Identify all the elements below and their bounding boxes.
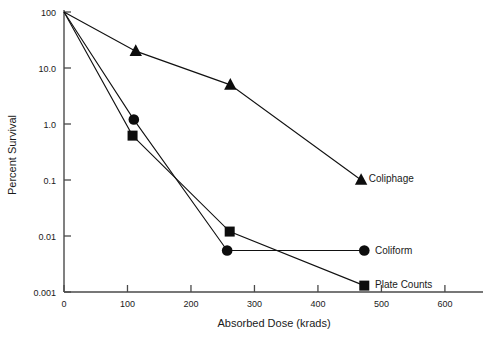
data-point-circle <box>359 245 370 256</box>
y-tick-label: 1.0 <box>43 120 56 130</box>
y-tick-label: 0.01 <box>38 232 56 242</box>
x-axis-tick-labels: 0100200300400500600 <box>61 299 452 309</box>
series-line <box>64 12 361 180</box>
series-plate-counts <box>64 12 369 291</box>
x-tick-label: 400 <box>310 299 325 309</box>
x-axis-title: Absorbed Dose (krads) <box>217 317 330 329</box>
data-series-layer <box>64 12 370 291</box>
x-tick-label: 300 <box>247 299 262 309</box>
y-tick-label: 0.1 <box>43 176 56 186</box>
y-axis-title: Percent Survival <box>6 115 18 195</box>
series-line <box>64 12 364 286</box>
survival-curve-chart: 10010.01.00.10.010.001 01002003004005006… <box>0 0 490 337</box>
chart-figure: 10010.01.00.10.010.001 01002003004005006… <box>0 0 490 337</box>
y-axis-tick-labels: 10010.01.00.10.010.001 <box>33 8 56 298</box>
x-tick-label: 200 <box>183 299 198 309</box>
x-tick-label: 500 <box>374 299 389 309</box>
y-axis-ticks <box>64 12 71 292</box>
series-label-coliform: Coliform <box>375 245 412 256</box>
data-point-triangle <box>130 44 142 56</box>
data-point-square <box>359 281 369 291</box>
data-point-square <box>128 131 138 141</box>
series-coliphage <box>64 12 367 185</box>
series-label-plate-counts: Plate Counts <box>375 279 432 290</box>
y-tick-label: 10.0 <box>38 64 56 74</box>
y-tick-label: 100 <box>41 8 56 18</box>
y-tick-label: 0.001 <box>33 288 56 298</box>
series-annotations: ColiphageColiformPlate Counts <box>369 173 433 290</box>
data-point-circle <box>222 245 233 256</box>
data-point-circle <box>129 114 140 125</box>
x-tick-label: 0 <box>61 299 66 309</box>
x-tick-label: 100 <box>120 299 135 309</box>
series-line <box>64 12 364 251</box>
data-point-triangle <box>355 173 367 185</box>
series-label-coliphage: Coliphage <box>369 173 414 184</box>
x-tick-label: 600 <box>437 299 452 309</box>
data-point-square <box>225 227 235 237</box>
